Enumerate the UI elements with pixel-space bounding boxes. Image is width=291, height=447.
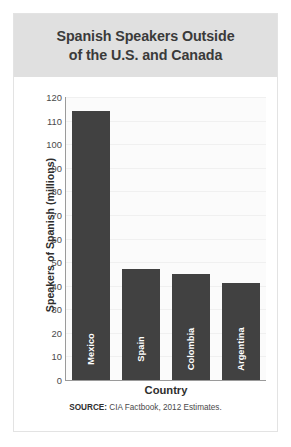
y-axis-tick: 60 bbox=[52, 233, 62, 244]
bar-category-label: Mexico bbox=[86, 333, 96, 365]
y-axis-tick: 70 bbox=[52, 209, 62, 220]
bar-colombia[interactable]: Colombia bbox=[172, 274, 210, 380]
y-axis-tick: 120 bbox=[46, 92, 62, 103]
source-prefix: SOURCE: bbox=[69, 403, 107, 412]
plot-region: Speakers of Spanish (millions) 120110100… bbox=[14, 77, 277, 431]
y-axis-tick: 10 bbox=[52, 351, 62, 362]
y-axis-ticks: 1201101009080706050403020100 bbox=[36, 97, 62, 380]
x-axis-label: Country bbox=[66, 384, 266, 396]
y-axis-tick: 40 bbox=[52, 280, 62, 291]
bar-slot: Spain bbox=[116, 97, 166, 380]
source-text: CIA Factbook, 2012 Estimates. bbox=[109, 403, 221, 412]
bar-mexico[interactable]: Mexico bbox=[72, 111, 110, 380]
source-note: SOURCE: CIA Factbook, 2012 Estimates. bbox=[14, 403, 277, 412]
y-axis-tick: 0 bbox=[57, 375, 62, 386]
bar-series: MexicoSpainColombiaArgentina bbox=[66, 97, 266, 380]
bar-category-label: Argentina bbox=[236, 327, 246, 370]
y-axis-tick: 90 bbox=[52, 162, 62, 173]
bar-category-label: Colombia bbox=[186, 328, 196, 370]
x-axis-line bbox=[66, 380, 266, 381]
title-band: Spanish Speakers Outside of the U.S. and… bbox=[14, 14, 277, 77]
bar-slot: Argentina bbox=[216, 97, 266, 380]
y-axis-tick: 50 bbox=[52, 257, 62, 268]
y-axis-tick: 80 bbox=[52, 186, 62, 197]
bar-slot: Colombia bbox=[166, 97, 216, 380]
y-axis-tick: 100 bbox=[46, 139, 62, 150]
bar-slot: Mexico bbox=[66, 97, 116, 380]
bar-spain[interactable]: Spain bbox=[122, 269, 160, 380]
chart-card: Spanish Speakers Outside of the U.S. and… bbox=[13, 13, 278, 432]
y-axis-tick: 30 bbox=[52, 304, 62, 315]
y-axis-line bbox=[65, 97, 66, 381]
bar-category-label: Spain bbox=[136, 336, 146, 361]
y-axis-tick: 20 bbox=[52, 327, 62, 338]
y-axis-tick: 110 bbox=[47, 115, 62, 126]
plot-area: MexicoSpainColombiaArgentina bbox=[66, 97, 266, 380]
page-title: Spanish Speakers Outside of the U.S. and… bbox=[57, 27, 235, 65]
bar-argentina[interactable]: Argentina bbox=[222, 283, 260, 380]
